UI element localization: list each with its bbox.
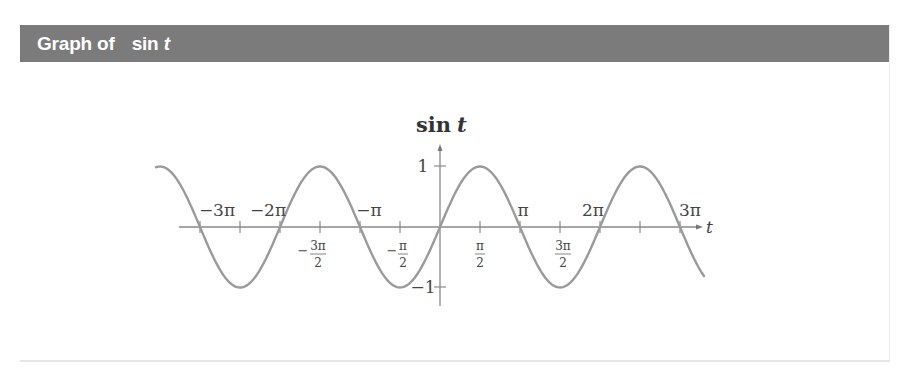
svg-text:−: − (298, 243, 309, 258)
x-label-neg2pi: −2π (250, 200, 286, 220)
y-tick-label-neg1: −1 (410, 277, 435, 297)
svg-text:3π: 3π (310, 239, 326, 253)
x-tick-labels-below: − 3π 2 − π 2 π 2 3π 2 (298, 239, 571, 270)
svg-text:π: π (476, 239, 484, 253)
x-label-neg3pi-over-2: − 3π 2 (298, 239, 326, 270)
svg-text:−: − (387, 243, 398, 258)
sine-plot: sint 1 −1 t −3π −2π −π π 2π 3π − 3π 2 − … (0, 0, 912, 389)
x-label-neg3pi: −3π (199, 200, 235, 220)
svg-text:2: 2 (476, 256, 484, 270)
x-axis-label: t (706, 217, 713, 237)
x-label-3pi-over-2: 3π 2 (555, 239, 571, 270)
x-label-2pi: 2π (582, 200, 604, 220)
x-label-3pi: 3π (679, 200, 701, 220)
x-label-pi-over-2: π 2 (475, 239, 485, 270)
x-label-negpi-over-2: − π 2 (387, 239, 408, 270)
x-label-pi: π (517, 200, 528, 220)
svg-text:2: 2 (314, 256, 322, 270)
y-axis-label: sint (416, 112, 467, 137)
svg-text:π: π (399, 239, 407, 253)
x-axis-arrow-icon (696, 225, 703, 230)
svg-text:3π: 3π (555, 239, 571, 253)
svg-text:2: 2 (559, 256, 567, 270)
x-label-negpi: −π (356, 200, 381, 220)
y-tick-label-1: 1 (418, 156, 429, 176)
svg-text:2: 2 (399, 256, 407, 270)
y-axis-arrow-icon (438, 144, 443, 151)
